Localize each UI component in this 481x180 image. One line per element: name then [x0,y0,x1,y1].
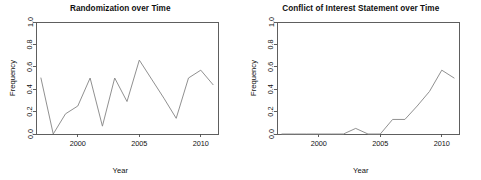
y-tick-label-right: 0.0 [266,129,275,139]
plot-area-left: 0.00.20.40.60.81.0200020052010 [0,0,241,180]
y-tick-label-right: 0.8 [266,39,275,49]
y-tick-label-left: 0.4 [26,84,35,94]
panel-conflict-of-interest: Conflict of Interest Statement over Time… [241,0,481,180]
y-tick-label-right: 0.4 [266,84,275,94]
y-tick-label-left: 0.2 [26,107,35,117]
panel-randomization: Randomization over Time Frequency 0.00.2… [0,0,241,180]
y-tick-label-left: 0.0 [26,129,35,139]
x-tick-label-right: 2010 [433,139,449,148]
x-tick-label-right: 2005 [372,139,388,148]
data-series-line-right [281,70,453,134]
y-tick-label-left: 0.8 [26,39,35,49]
data-series-line-left [41,60,213,134]
plot-box-right [277,22,459,134]
x-tick-label-left: 2010 [193,139,209,148]
x-tick-label-left: 2005 [131,139,147,148]
y-tick-label-right: 0.6 [266,62,275,72]
plot-area-right: 0.00.20.40.60.81.0200020052010 [241,0,481,180]
y-tick-label-left: 1.0 [26,17,35,27]
y-tick-label-right: 1.0 [266,17,275,27]
x-tick-label-left: 2000 [70,139,86,148]
figure-two-panel-line-charts: Randomization over Time Frequency 0.00.2… [0,0,481,180]
y-tick-label-left: 0.6 [26,62,35,72]
x-axis-label-right: Year [241,166,481,175]
x-tick-label-right: 2000 [310,139,326,148]
y-tick-label-right: 0.2 [266,107,275,117]
x-axis-label-left: Year [0,166,241,175]
